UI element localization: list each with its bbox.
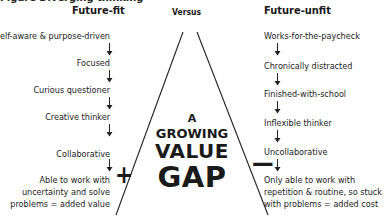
trait-added-value-2: uncertainty and solve <box>22 186 110 198</box>
versus-header: Versus <box>172 7 201 17</box>
trait-added-cost-3: with problems = added cost <box>264 198 378 210</box>
arrow-down-icon <box>273 43 282 56</box>
trait-self-aware: Self-aware & purpose-driven <box>0 30 110 42</box>
arrow-down-icon <box>273 101 282 114</box>
trait-paycheck: Works-for-the-paycheck <box>264 30 360 42</box>
arrow-down-icon <box>105 159 114 172</box>
arrow-down-icon <box>273 73 282 86</box>
trait-curious: Curious questioner <box>33 84 110 96</box>
arrow-down-icon <box>105 124 114 137</box>
arrow-down-icon <box>105 97 114 110</box>
trait-inflexible: Inflexible thinker <box>264 117 332 129</box>
trait-focused: Focused <box>77 57 110 69</box>
minus-icon: — <box>252 149 274 177</box>
arrow-down-icon <box>105 43 114 56</box>
trait-creative: Creative thinker <box>45 111 110 123</box>
arrow-down-icon <box>273 159 282 172</box>
trait-collaborative: Collaborative <box>56 148 110 160</box>
trait-added-cost-1: Only able to work with <box>264 174 355 186</box>
arrow-down-icon <box>273 130 282 143</box>
future-fit-header: Future-fit <box>72 4 125 17</box>
trait-distracted: Chronically distracted <box>264 60 352 72</box>
trait-added-value-1: Able to work with <box>39 174 110 186</box>
trait-added-value-3: problems = added value <box>10 198 110 210</box>
gap-label-gap: GAP <box>142 160 242 194</box>
trait-added-cost-2: repetition & routine, so stuck <box>264 186 382 198</box>
future-unfit-header: Future-unfit <box>264 4 331 17</box>
plus-icon: + <box>115 161 133 189</box>
arrow-down-icon <box>105 70 114 83</box>
trait-finished-school: Finished-with-school <box>264 88 346 100</box>
gap-label-a: A <box>172 112 212 125</box>
